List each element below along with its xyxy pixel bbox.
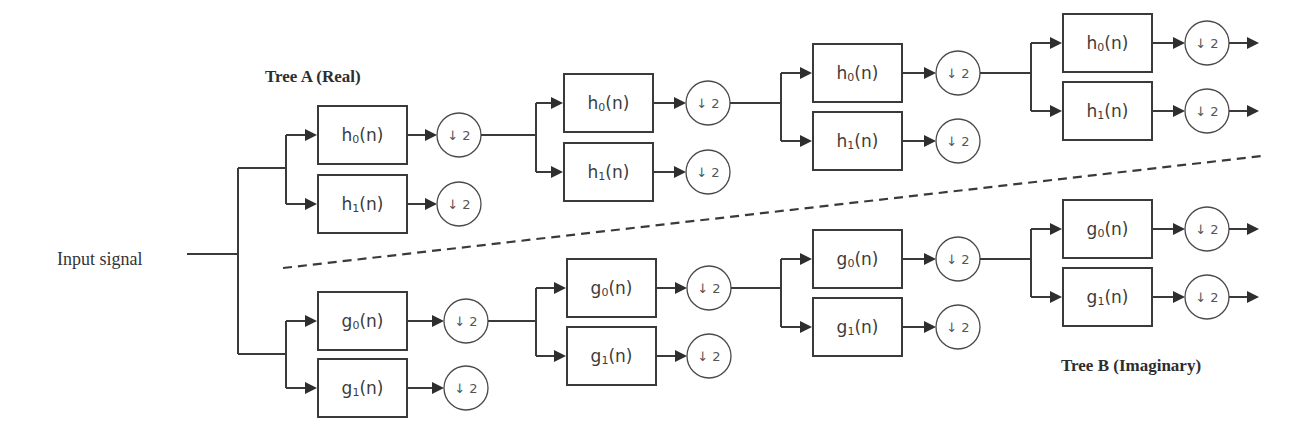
downsample-label: ↓ 2 bbox=[1195, 104, 1218, 119]
arrowhead-icon bbox=[1247, 223, 1259, 235]
arrowhead-icon bbox=[1247, 291, 1259, 303]
arrowhead-icon bbox=[1050, 291, 1062, 303]
filter-label: g0(n) bbox=[591, 278, 633, 299]
downsample-label: ↓ 2 bbox=[946, 66, 969, 81]
filter-label: g1(n) bbox=[837, 317, 879, 338]
tree-a-stage-2: h0(n)↓ 2h1(n)↓ 2 bbox=[536, 73, 781, 201]
filter-label: h0(n) bbox=[342, 125, 384, 146]
arrowhead-icon bbox=[924, 253, 936, 265]
arrowhead-icon bbox=[425, 129, 437, 141]
arrowhead-icon bbox=[1173, 105, 1185, 117]
filter-label: h0(n) bbox=[588, 93, 630, 114]
tree-a-stage-4: h0(n)↓ 2h1(n)↓ 2 bbox=[1031, 14, 1259, 140]
arrowhead-icon bbox=[800, 135, 812, 147]
arrowhead-icon bbox=[425, 198, 437, 210]
tree-a-label: Tree A (Real) bbox=[265, 67, 361, 86]
arrowhead-icon bbox=[551, 97, 563, 109]
arrowhead-icon bbox=[800, 67, 812, 79]
filter-label: h1(n) bbox=[588, 162, 630, 183]
tree-a-stage-1: h0(n)↓ 2h1(n)↓ 2 bbox=[286, 103, 536, 233]
arrowhead-icon bbox=[1173, 223, 1185, 235]
tree-b-stage-1: g0(n)↓ 2g1(n)↓ 2 bbox=[286, 288, 536, 417]
arrowhead-icon bbox=[305, 129, 317, 141]
arrowhead-icon bbox=[1247, 105, 1259, 117]
arrowhead-icon bbox=[305, 315, 317, 327]
arrowhead-icon bbox=[800, 321, 812, 333]
filter-label: h0(n) bbox=[1087, 33, 1129, 54]
filter-label: g1(n) bbox=[1087, 287, 1129, 308]
input-signal-label: Input signal bbox=[57, 249, 143, 269]
arrowhead-icon bbox=[924, 321, 936, 333]
filter-label: h0(n) bbox=[837, 63, 879, 84]
arrowhead-icon bbox=[305, 382, 317, 394]
filter-label: g0(n) bbox=[1087, 219, 1129, 240]
downsample-label: ↓ 2 bbox=[1195, 36, 1218, 51]
downsample-label: ↓ 2 bbox=[946, 320, 969, 335]
input-wires bbox=[187, 168, 286, 354]
arrowhead-icon bbox=[800, 253, 812, 265]
arrowhead-icon bbox=[432, 315, 444, 327]
downsample-label: ↓ 2 bbox=[447, 128, 470, 143]
downsample-label: ↓ 2 bbox=[696, 96, 719, 111]
tree-b-stage-3: g0(n)↓ 2g1(n)↓ 2 bbox=[781, 229, 1031, 356]
filter-label: g1(n) bbox=[591, 346, 633, 367]
downsample-label: ↓ 2 bbox=[696, 165, 719, 180]
filter-label: h1(n) bbox=[837, 131, 879, 152]
arrowhead-icon bbox=[554, 350, 566, 362]
filter-label: h1(n) bbox=[1087, 101, 1129, 122]
filter-label: g1(n) bbox=[342, 378, 384, 399]
tree-b: g0(n)↓ 2g1(n)↓ 2g0(n)↓ 2g1(n)↓ 2g0(n)↓ 2… bbox=[286, 200, 1259, 417]
arrowhead-icon bbox=[924, 67, 936, 79]
arrowhead-icon bbox=[674, 166, 686, 178]
arrowhead-icon bbox=[1050, 223, 1062, 235]
tree-b-stage-4: g0(n)↓ 2g1(n)↓ 2 bbox=[1031, 200, 1259, 326]
tree-b-stage-2: g0(n)↓ 2g1(n)↓ 2 bbox=[536, 259, 781, 385]
downsample-label: ↓ 2 bbox=[1195, 290, 1218, 305]
downsample-label: ↓ 2 bbox=[697, 281, 720, 296]
downsample-label: ↓ 2 bbox=[697, 349, 720, 364]
filter-bank-diagram: Input signal Tree A (Real) Tree B (Imagi… bbox=[0, 0, 1310, 436]
arrowhead-icon bbox=[1173, 37, 1185, 49]
filter-label: h1(n) bbox=[342, 194, 384, 215]
arrowhead-icon bbox=[1050, 37, 1062, 49]
filter-label: g0(n) bbox=[837, 249, 879, 270]
arrowhead-icon bbox=[675, 282, 687, 294]
downsample-label: ↓ 2 bbox=[946, 252, 969, 267]
downsample-label: ↓ 2 bbox=[946, 134, 969, 149]
arrowhead-icon bbox=[674, 97, 686, 109]
arrowhead-icon bbox=[305, 198, 317, 210]
downsample-label: ↓ 2 bbox=[454, 381, 477, 396]
downsample-label: ↓ 2 bbox=[447, 197, 470, 212]
arrowhead-icon bbox=[1050, 105, 1062, 117]
downsample-label: ↓ 2 bbox=[454, 314, 477, 329]
arrowhead-icon bbox=[1247, 37, 1259, 49]
arrowhead-icon bbox=[1173, 291, 1185, 303]
tree-b-label: Tree B (Imaginary) bbox=[1061, 356, 1201, 375]
downsample-label: ↓ 2 bbox=[1195, 222, 1218, 237]
arrowhead-icon bbox=[924, 135, 936, 147]
tree-a-stage-3: h0(n)↓ 2h1(n)↓ 2 bbox=[781, 43, 1031, 170]
arrowhead-icon bbox=[675, 350, 687, 362]
filter-label: g0(n) bbox=[342, 311, 384, 332]
arrowhead-icon bbox=[554, 282, 566, 294]
arrowhead-icon bbox=[551, 166, 563, 178]
arrowhead-icon bbox=[432, 382, 444, 394]
